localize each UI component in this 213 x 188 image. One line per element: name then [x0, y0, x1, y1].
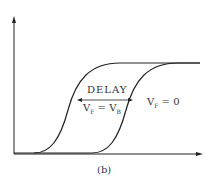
delay-label: DELAY [87, 84, 127, 95]
left-curve-label: VF = VB [83, 102, 121, 115]
delay-arrow-right-icon [128, 98, 133, 102]
figure-caption: (b) [97, 164, 111, 175]
right-curve-label: VF = 0 [147, 96, 180, 109]
x-axis-arrow-icon [196, 152, 203, 156]
y-axis-arrow-icon [12, 16, 16, 23]
delay-arrow-left-icon [77, 98, 82, 102]
